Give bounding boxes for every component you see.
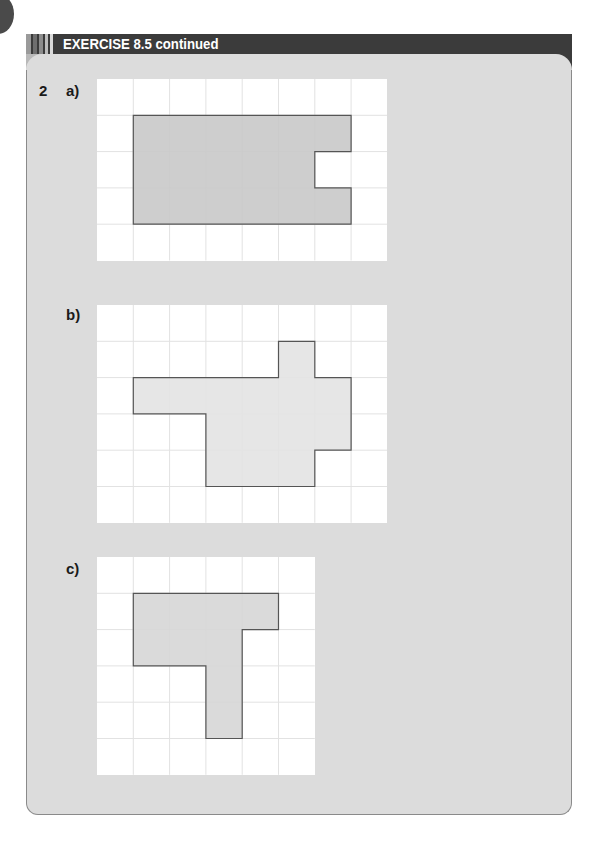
exercise-title: EXERCISE 8.5 continued bbox=[63, 34, 219, 54]
part-b-label: b) bbox=[66, 306, 80, 323]
square-grid bbox=[97, 305, 387, 523]
grid-part-a bbox=[97, 79, 387, 261]
rectilinear-shape bbox=[133, 115, 351, 224]
grid-part-c bbox=[97, 557, 315, 775]
square-grid bbox=[97, 557, 315, 775]
grid-part-b bbox=[97, 305, 387, 523]
question-number: 2 bbox=[39, 82, 47, 99]
page-corner-tab bbox=[0, 0, 14, 34]
part-c-label: c) bbox=[66, 560, 79, 577]
exercise-header: EXERCISE 8.5 continued bbox=[26, 34, 572, 54]
square-grid bbox=[97, 79, 387, 261]
part-a-label: a) bbox=[66, 82, 79, 99]
